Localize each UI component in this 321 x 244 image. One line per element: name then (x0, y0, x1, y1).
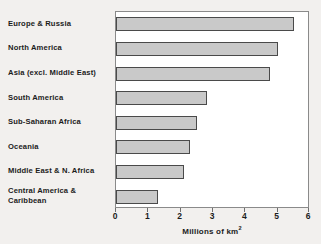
x-tick-label: 5 (274, 211, 279, 221)
x-tick-label: 4 (242, 211, 247, 221)
bar-series (116, 12, 308, 207)
category-label: South America (8, 93, 63, 102)
bar (116, 140, 190, 154)
category-axis-labels: Europe & RussiaNorth AmericaAsia (excl. … (0, 11, 113, 208)
x-tick-label: 6 (306, 211, 311, 221)
x-axis-title: Millions of km2 (115, 227, 309, 236)
x-axis-title-superscript: 2 (238, 225, 241, 231)
category-label: Central America &Caribbean (8, 186, 76, 204)
category-label: Oceania (8, 142, 39, 151)
bar (116, 91, 207, 105)
bar-chart-figure: Europe & RussiaNorth AmericaAsia (excl. … (0, 0, 321, 244)
x-tick-label: 2 (177, 211, 182, 221)
category-label: Europe & Russia (8, 19, 71, 28)
x-tick-label: 0 (113, 211, 118, 221)
plot-area (115, 11, 309, 208)
x-axis-tick-labels: 0123456 (115, 211, 309, 223)
bar (116, 116, 197, 130)
x-tick-label: 1 (145, 211, 150, 221)
bar (116, 17, 294, 31)
category-label: Sub-Saharan Africa (8, 117, 81, 126)
category-label: Middle East & N. Africa (8, 166, 94, 175)
category-label: North America (8, 43, 62, 52)
category-label: Asia (excl. Middle East) (8, 68, 96, 77)
bar (116, 67, 270, 81)
x-tick-label: 3 (210, 211, 215, 221)
bar (116, 165, 184, 179)
bar (116, 190, 158, 204)
bar (116, 42, 278, 56)
